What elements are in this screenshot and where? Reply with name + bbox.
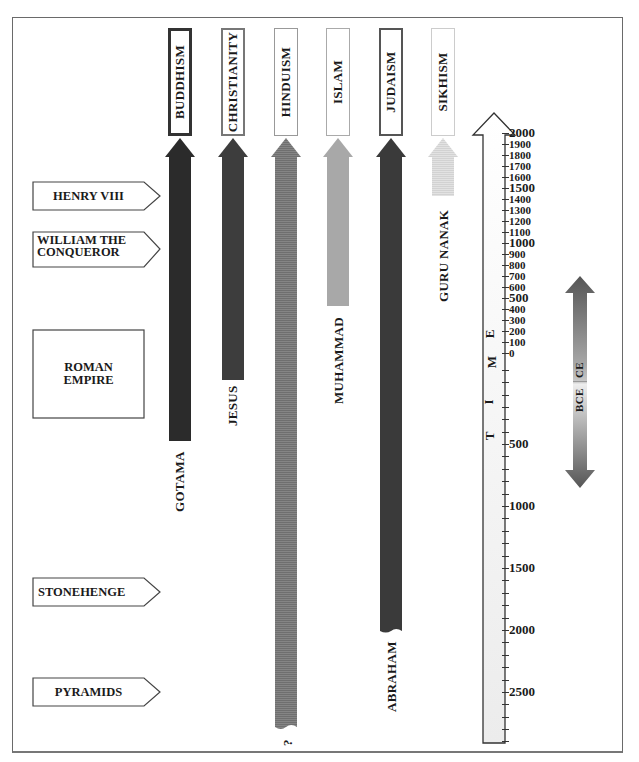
founder-label-jesus: JESUS <box>225 385 241 426</box>
founder-label-guru-nanak: GURU NANAK <box>436 210 452 302</box>
tick-2000: 2000 <box>509 127 535 138</box>
william-line-2: CONQUEROR <box>37 246 144 258</box>
tick-0: 0 <box>509 348 515 359</box>
sikhism-arrow <box>428 138 458 196</box>
pyramids-text: PYRAMIDS <box>55 685 122 700</box>
william-the-conqueror-label: WILLIAM THE CONQUEROR <box>37 234 144 266</box>
tick-bce-2000: 2000 <box>509 624 535 635</box>
era-label-bce: BCE <box>573 388 585 412</box>
henry-viii-label: HENRY VIII <box>33 182 144 210</box>
era-double-arrow <box>565 276 595 488</box>
hinduism-arrow <box>271 138 301 729</box>
tick-1500: 1500 <box>509 182 535 193</box>
christianity-arrow <box>218 138 248 380</box>
founder-label-abraham: ABRAHAM <box>384 641 400 712</box>
roman-empire-label: ROMAN EMPIRE <box>33 330 144 418</box>
pyramids-label: PYRAMIDS <box>33 678 144 706</box>
henry-viii-text: HENRY VIII <box>53 189 124 204</box>
islam-arrow <box>323 138 353 306</box>
tick-500: 500 <box>509 292 529 303</box>
roman-line-2: EMPIRE <box>64 374 114 387</box>
time-letter-e: E <box>482 330 498 339</box>
founder-label-hinduism-unknown: ? <box>280 739 296 746</box>
time-letter-i: I <box>481 399 497 404</box>
tick-bce-1000: 1000 <box>509 500 535 511</box>
founder-label-gotama: GOTAMA <box>172 451 188 512</box>
time-letter-m: M <box>484 356 500 368</box>
tick-1000: 1000 <box>509 237 535 248</box>
era-divider <box>573 381 587 382</box>
tick-bce-1500: 1500 <box>509 562 535 573</box>
era-label-ce: CE <box>573 362 585 378</box>
stonehenge-label: STONEHENGE <box>38 578 144 606</box>
tick-bce-2500: 2500 <box>509 686 535 697</box>
stonehenge-text: STONEHENGE <box>38 585 125 600</box>
judaism-arrow <box>376 138 406 633</box>
tick-bce-500: 500 <box>509 438 529 449</box>
time-letter-t: T <box>482 432 498 441</box>
buddhism-arrow <box>165 138 195 441</box>
founder-label-muhammad: MUHAMMAD <box>331 317 347 404</box>
